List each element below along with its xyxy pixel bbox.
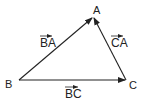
vertex-label-b: B xyxy=(5,78,12,90)
triangle-vector-diagram: A B C BA CA BC xyxy=(0,0,144,106)
vertex-label-c: C xyxy=(129,79,137,91)
vector-label-ca: CA xyxy=(111,36,128,50)
vector-label-bc: BC xyxy=(65,87,82,101)
vector-label-ba: BA xyxy=(40,36,56,50)
vector-label-ca-text: CA xyxy=(111,36,128,50)
vector-label-ba-text: BA xyxy=(40,36,56,50)
vector-label-bc-text: BC xyxy=(65,87,82,101)
vertex-label-a: A xyxy=(93,4,101,16)
